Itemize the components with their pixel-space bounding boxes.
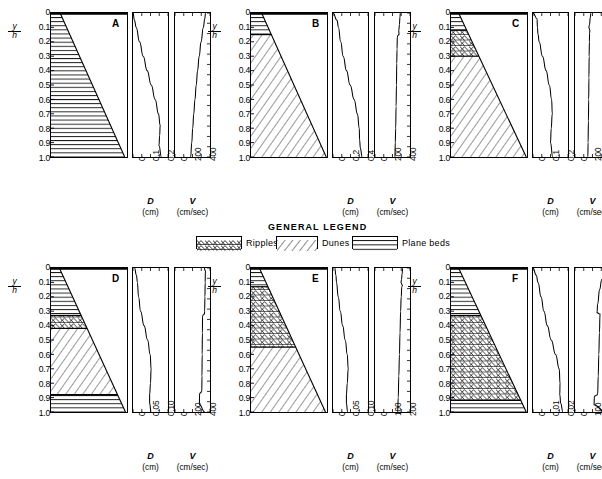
v-profile-plot-b[interactable]	[374, 12, 411, 158]
v-tick-label: 200	[593, 148, 602, 161]
y-tick-label: 0.8	[239, 125, 250, 133]
v-profile-plot-c[interactable]	[574, 12, 602, 158]
stratigraphy-column-f[interactable]	[450, 267, 528, 413]
y-tick-label: 0.8	[239, 380, 250, 388]
v-axis-unit-f: (cm/sec)	[561, 463, 602, 472]
y-axis-denominator: h	[208, 287, 221, 295]
v-profile-plot-d[interactable]	[174, 267, 211, 413]
v-axis-title-b: V	[370, 196, 415, 206]
y-axis-denominator: h	[8, 32, 21, 40]
y-tick-label: 0.6	[239, 96, 250, 104]
d-profile-plot-b[interactable]	[332, 12, 369, 158]
y-tick-label: 0.5	[239, 336, 250, 344]
panel-letter-a: A	[112, 18, 119, 29]
y-axis-labels-b: 00.10.20.30.40.50.60.70.80.91.0	[224, 12, 250, 158]
legend-label-plane-beds: Plane beds	[402, 238, 450, 248]
stratigraphy-column-d[interactable]	[50, 267, 128, 413]
d-axis-title-f: D	[528, 451, 573, 461]
y-over-h-label-a: yh	[8, 23, 21, 39]
y-tick-label: 0.7	[39, 110, 50, 118]
y-tick-label: 0.5	[439, 336, 450, 344]
legend-label-dunes: Dunes	[322, 238, 350, 248]
d-tick-label: 0.1	[151, 150, 161, 161]
d-tick-label: 0	[337, 412, 347, 416]
v-tick-label: 200	[408, 403, 418, 416]
v-axis-title-a: V	[170, 196, 215, 206]
y-axis-labels-c: 00.10.20.30.40.50.60.70.80.91.0	[424, 12, 450, 158]
stratigraphy-column-e[interactable]	[250, 267, 328, 413]
y-tick-label: 0.5	[239, 81, 250, 89]
v-axis-title-f: V	[570, 451, 602, 461]
y-tick-label: 1.0	[239, 409, 250, 417]
y-tick-label: 0.9	[39, 139, 50, 147]
y-tick-label: 0.7	[239, 365, 250, 373]
y-tick-label: 0.5	[39, 336, 50, 344]
y-over-h-label-d: yh	[8, 278, 21, 294]
v-tick-label: 0	[379, 412, 389, 416]
d-profile-plot-e[interactable]	[332, 267, 369, 413]
y-axis-denominator: h	[208, 32, 221, 40]
d-profile-plot-d[interactable]	[132, 267, 169, 413]
v-tick-label: 400	[408, 148, 418, 161]
v-profile-plot-e[interactable]	[374, 267, 411, 413]
v-tick-label: 200	[193, 403, 203, 416]
y-tick-label: 0.5	[39, 81, 50, 89]
d-profile-plot-f[interactable]	[532, 267, 569, 413]
v-axis-title-d: V	[170, 451, 215, 461]
d-profile-plot-a[interactable]	[132, 12, 169, 158]
y-tick-label: 0.5	[439, 81, 450, 89]
y-tick-label: 0.9	[239, 394, 250, 402]
legend-swatch-ripples-icon	[196, 236, 242, 249]
y-tick-label: 0.1	[439, 23, 450, 31]
panel-letter-f: F	[512, 273, 518, 284]
y-tick-label: 0.4	[239, 66, 250, 74]
v-profile-plot-f[interactable]	[574, 267, 602, 413]
y-axis-denominator: h	[8, 287, 21, 295]
v-tick-label: 400	[208, 148, 218, 161]
d-axis-title-e: D	[328, 451, 373, 461]
d-tick-label: 0	[337, 157, 347, 161]
y-tick-label: 1.0	[439, 409, 450, 417]
y-tick-label: 0.8	[439, 380, 450, 388]
panel-letter-d: D	[112, 273, 119, 284]
y-tick-label: 0.1	[39, 278, 50, 286]
y-tick-label: 0.7	[239, 110, 250, 118]
stratigraphy-column-b[interactable]	[250, 12, 328, 158]
y-tick-label: 0.8	[39, 380, 50, 388]
d-axis-title-b: D	[328, 196, 373, 206]
y-tick-label: 0.7	[439, 110, 450, 118]
y-tick-label: 0.3	[439, 307, 450, 315]
y-tick-label: 0.6	[39, 351, 50, 359]
y-tick-label: 0.4	[439, 66, 450, 74]
d-axis-title-d: D	[128, 451, 173, 461]
d-tick-label: 0.2	[351, 150, 361, 161]
v-tick-label: 0	[579, 412, 589, 416]
d-tick-label: 0.05	[351, 400, 361, 416]
y-over-h-label-b: yh	[208, 23, 221, 39]
d-tick-label: 0	[137, 157, 147, 161]
y-over-h-label-e: yh	[208, 278, 221, 294]
y-tick-label: 1.0	[39, 409, 50, 417]
v-tick-label: 200	[393, 148, 403, 161]
panel-letter-b: B	[312, 18, 319, 29]
d-profile-plot-c[interactable]	[532, 12, 569, 158]
y-tick-label: 0.6	[439, 351, 450, 359]
y-axis-denominator: h	[408, 287, 421, 295]
stratigraphy-column-c[interactable]	[450, 12, 528, 158]
y-tick-label: 0.2	[439, 37, 450, 45]
y-tick-label: 0.3	[239, 307, 250, 315]
v-axis-unit-b: (cm/sec)	[361, 208, 424, 217]
y-tick-label: 0.4	[39, 321, 50, 329]
v-profile-plot-a[interactable]	[174, 12, 211, 158]
y-tick-label: 0.1	[239, 23, 250, 31]
y-tick-label: 0.2	[439, 292, 450, 300]
y-tick-label: 0.2	[39, 37, 50, 45]
legend-swatch-dunes-icon	[276, 236, 318, 249]
stratigraphy-column-a[interactable]	[50, 12, 128, 158]
y-tick-label: 0.3	[239, 52, 250, 60]
v-axis-unit-a: (cm/sec)	[161, 208, 224, 217]
y-tick-label: 0.7	[39, 365, 50, 373]
d-tick-label: 0	[137, 412, 147, 416]
d-tick-label: 0.05	[151, 400, 161, 416]
panel-letter-c: C	[512, 18, 519, 29]
